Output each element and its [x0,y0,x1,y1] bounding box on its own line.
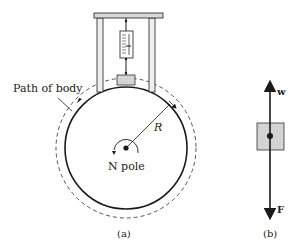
path-leader-line [58,98,72,111]
diagram-canvas: Path of body R N pole (a) w F (b) [0,0,303,250]
figure-a: Path of body R N pole (a) [13,13,196,239]
frame-right-post [149,18,155,92]
frame-top-bar [94,13,163,18]
upper-force-label: w [276,86,286,97]
caption-a: (a) [117,228,131,239]
body-block [117,75,135,85]
spring-scale [120,31,133,58]
figure-b: w F (b) [257,86,286,239]
lower-force-label: F [277,204,284,215]
free-body-center-dot [267,133,273,139]
center-dot [123,145,128,150]
path-label: Path of body [13,82,83,95]
frame-left-post [97,18,103,92]
pole-label: N pole [108,160,145,173]
path-direction-arrow-icon [77,98,82,103]
caption-b: (b) [263,228,277,239]
radius-label: R [153,121,162,134]
